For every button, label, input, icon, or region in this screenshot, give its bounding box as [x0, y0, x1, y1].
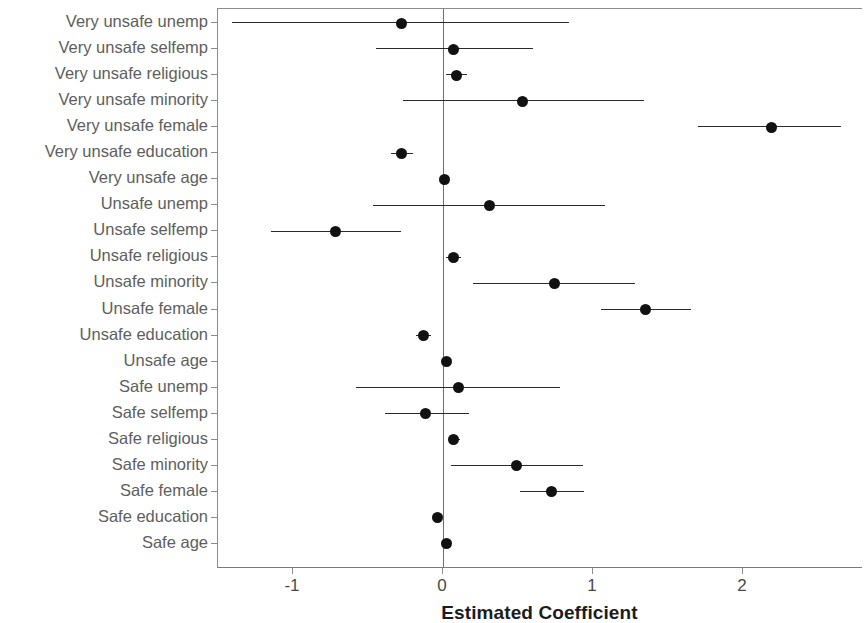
y-axis-category-label: Very unsafe religious — [55, 65, 208, 82]
estimate-point — [420, 408, 431, 419]
x-axis-tick-label: 2 — [737, 576, 746, 596]
plot-area — [218, 9, 862, 567]
y-axis-tick — [211, 152, 217, 153]
y-axis-category-label: Safe unemp — [119, 378, 208, 395]
y-axis-category-label: Very unsafe unemp — [66, 13, 208, 30]
y-axis-category-label: Safe education — [98, 508, 208, 525]
y-axis-category-label: Unsafe selfemp — [93, 221, 208, 238]
estimate-point — [439, 174, 450, 185]
y-axis-category-label: Unsafe religious — [90, 247, 208, 264]
y-axis-tick — [211, 517, 217, 518]
y-axis-category-label: Unsafe age — [124, 352, 208, 369]
y-axis-category-label: Unsafe female — [102, 300, 208, 317]
y-axis-tick — [211, 178, 217, 179]
y-axis-tick — [211, 100, 217, 101]
y-axis-tick — [211, 361, 217, 362]
estimate-point — [448, 434, 459, 445]
y-axis-category-label: Safe religious — [108, 430, 208, 447]
y-axis-category-label: Safe selfemp — [112, 404, 208, 421]
estimate-point — [511, 460, 522, 471]
estimate-point — [396, 18, 407, 29]
estimate-point — [453, 382, 464, 393]
x-axis-tick — [442, 568, 443, 574]
estimate-point — [484, 200, 495, 211]
y-axis-category-label: Unsafe minority — [93, 273, 208, 290]
y-axis-tick — [211, 387, 217, 388]
estimate-point — [441, 356, 452, 367]
y-axis-category-label: Very unsafe female — [67, 117, 208, 134]
estimate-point — [640, 304, 651, 315]
x-axis-tick-label: 0 — [437, 576, 446, 596]
y-axis-tick — [211, 48, 217, 49]
x-axis-title: Estimated Coefficient — [217, 602, 862, 623]
y-axis-tick — [211, 230, 217, 231]
y-axis-category-label: Very unsafe age — [89, 169, 208, 186]
x-axis-tick-label: -1 — [284, 576, 299, 596]
y-axis-category-label: Very unsafe selfemp — [59, 39, 209, 56]
y-axis-tick — [211, 309, 217, 310]
y-axis-category-label: Safe minority — [112, 456, 208, 473]
estimate-point — [766, 122, 777, 133]
y-axis-tick — [211, 282, 217, 283]
estimate-point — [546, 486, 557, 497]
estimate-point — [396, 148, 407, 159]
y-axis-tick — [211, 543, 217, 544]
estimate-point — [549, 278, 560, 289]
estimate-point — [418, 330, 429, 341]
y-axis-category-label: Unsafe education — [80, 326, 208, 343]
y-axis-tick — [211, 491, 217, 492]
y-axis-category-label: Very unsafe minority — [59, 91, 208, 108]
y-axis-tick — [211, 126, 217, 127]
estimate-point — [330, 226, 341, 237]
y-axis-category-label: Very unsafe education — [45, 143, 208, 160]
y-axis-category-label: Safe female — [120, 482, 208, 499]
estimate-point — [448, 44, 459, 55]
y-axis-category-label: Safe age — [142, 534, 208, 551]
zero-reference-line — [443, 9, 444, 567]
y-axis-tick — [211, 74, 217, 75]
y-axis-tick — [211, 204, 217, 205]
estimate-point — [448, 252, 459, 263]
x-axis-tick — [592, 568, 593, 574]
y-axis-tick — [211, 22, 217, 23]
x-axis-tick — [292, 568, 293, 574]
y-axis-tick — [211, 413, 217, 414]
coefficient-plot-figure: Very unsafe unempVery unsafe selfempVery… — [0, 0, 867, 623]
plot-panel — [217, 8, 862, 568]
y-axis-category-label: Unsafe unemp — [101, 195, 208, 212]
y-axis-tick — [211, 256, 217, 257]
x-axis-tick — [742, 568, 743, 574]
estimate-point — [432, 512, 443, 523]
x-axis-tick-label: 1 — [587, 576, 596, 596]
estimate-point — [451, 70, 462, 81]
estimate-point — [441, 538, 452, 549]
y-axis-tick — [211, 465, 217, 466]
y-axis-tick — [211, 439, 217, 440]
y-axis-tick — [211, 335, 217, 336]
estimate-point — [517, 96, 528, 107]
